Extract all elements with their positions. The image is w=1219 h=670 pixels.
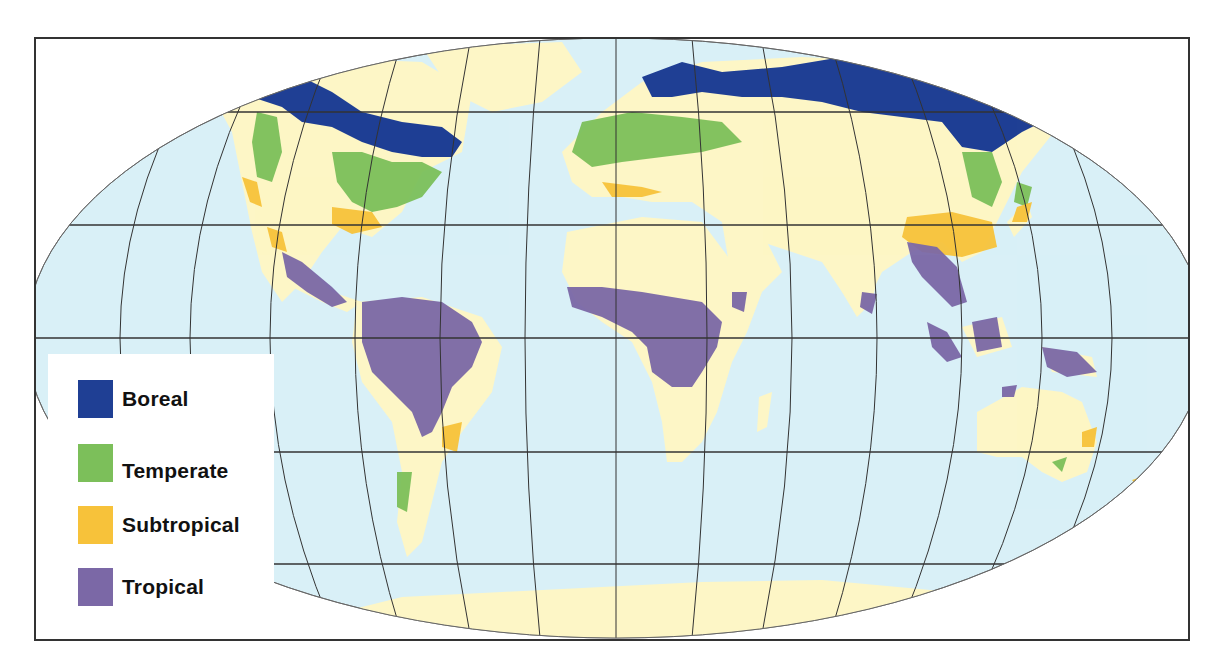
legend-label: Subtropical <box>122 513 240 537</box>
tropical-swatch <box>78 568 113 606</box>
legend: Boreal Temperate Subtropical Tropical <box>48 354 274 612</box>
legend-label: Tropical <box>122 575 204 599</box>
legend-label: Temperate <box>122 459 228 483</box>
boreal-swatch <box>78 380 113 418</box>
subtropical-swatch <box>78 506 113 544</box>
legend-item-boreal: Boreal <box>78 380 189 418</box>
legend-label: Boreal <box>122 387 189 411</box>
legend-item-subtropical: Subtropical <box>78 506 240 544</box>
temperate-swatch <box>78 444 113 482</box>
legend-item-tropical: Tropical <box>78 568 204 606</box>
map-frame: Boreal Temperate Subtropical Tropical <box>34 37 1190 641</box>
legend-item-temperate: Temperate <box>78 443 228 483</box>
